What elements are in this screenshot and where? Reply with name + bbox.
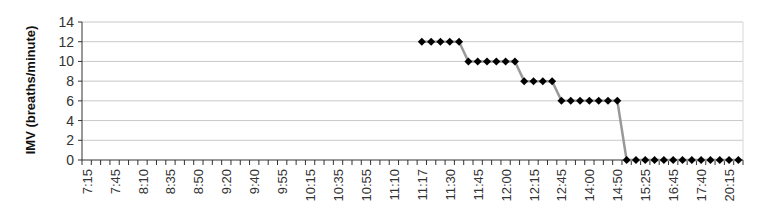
x-tick-label: 17:40 [694,169,709,202]
x-tick-label: 9:55 [275,169,290,194]
data-point-diamond [688,156,696,164]
data-point-diamond [678,156,686,164]
data-point-diamond [502,57,510,65]
x-tick-label: 11:45 [471,169,486,201]
data-point-diamond [660,156,668,164]
y-tick-label: 12 [58,34,74,50]
data-point-diamond [734,156,742,164]
x-tick-label: 8:50 [191,169,206,194]
data-point-diamond [511,57,519,65]
x-tick-label: 11:30 [443,169,458,201]
data-point-diamond [492,57,500,65]
data-point-diamond [576,97,584,105]
x-tick-label: 8:35 [163,169,178,194]
x-tick-label: 10:15 [303,169,318,202]
x-tick-label: 20:15 [722,169,737,202]
data-point-diamond [585,97,593,105]
y-tick-label: 6 [66,93,74,109]
data-point-diamond [446,38,454,46]
data-point-diamond [530,77,538,85]
data-point-diamond [623,156,631,164]
data-point-diamond [669,156,677,164]
y-tick-label: 2 [66,132,74,148]
data-point-diamond [548,77,556,85]
data-point-diamond [539,77,547,85]
data-point-diamond [567,97,575,105]
x-tick-label: 14:50 [610,169,625,202]
x-tick-label: 8:10 [136,169,151,194]
data-point-diamond [483,57,491,65]
y-tick-label: 14 [58,14,74,30]
data-point-diamond [632,156,640,164]
data-point-diamond [613,97,621,105]
x-tick-label: 15:25 [638,169,653,202]
y-tick-label: 4 [66,113,74,129]
x-tick-label: 10:55 [359,169,374,202]
x-tick-label: 12:45 [554,169,569,202]
x-tick-label: 12:00 [499,169,514,202]
x-tick-label: 11:17 [415,169,430,201]
y-tick-label: 10 [58,53,74,69]
data-point-diamond [464,57,472,65]
data-point-diamond [697,156,705,164]
data-point-diamond [641,156,649,164]
imv-line-chart: 024681012147:157:458:108:358:509:209:409… [0,0,768,220]
x-tick-label: 11:10 [387,169,402,201]
y-tick-label: 8 [66,73,74,89]
data-point-diamond [474,57,482,65]
data-point-diamond [455,38,463,46]
y-tick-label: 0 [66,152,74,168]
data-point-diamond [418,38,426,46]
data-point-diamond [706,156,714,164]
x-tick-label: 10:35 [331,169,346,202]
data-point-diamond [557,97,565,105]
x-tick-label: 9:20 [219,169,234,194]
data-point-diamond [725,156,733,164]
x-tick-label: 14:00 [582,169,597,202]
data-point-diamond [427,38,435,46]
data-point-diamond [436,38,444,46]
data-point-diamond [520,77,528,85]
data-point-diamond [716,156,724,164]
data-point-diamond [595,97,603,105]
x-tick-label: 7:45 [108,169,123,194]
data-point-diamond [651,156,659,164]
x-tick-label: 12:15 [527,169,542,202]
x-tick-label: 7:15 [80,169,95,194]
x-tick-label: 16:45 [666,169,681,202]
data-point-diamond [604,97,612,105]
x-tick-label: 9:40 [247,169,262,194]
